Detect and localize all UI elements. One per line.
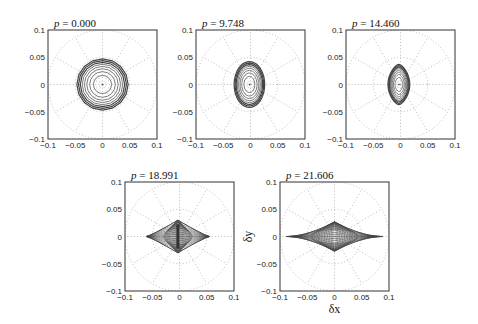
y-tick-label: 0.05 <box>106 205 122 214</box>
y-tick-label: 0.1 <box>266 178 278 187</box>
y-tick-label: −0.1 <box>261 287 277 296</box>
x-tick-label: 0 <box>248 141 253 150</box>
subplot-title: p = 9.748 <box>201 17 244 29</box>
contour-curves <box>234 62 265 108</box>
y-tick-label: −0.05 <box>257 260 278 269</box>
y-tick-label: 0 <box>273 233 278 242</box>
y-tick-label: 0 <box>339 81 344 90</box>
y-tick-label: 0.05 <box>261 205 277 214</box>
contour-curves <box>388 64 410 104</box>
subplot-title: p = 14.460 <box>351 17 400 29</box>
subplot-p-9748: −0.1−0.0500.050.10.10.050−0.05−0.1p = 9.… <box>173 17 311 150</box>
y-tick-label: −0.05 <box>323 108 344 117</box>
x-tick-label: −0.05 <box>363 141 384 150</box>
y-tick-label: −0.1 <box>29 135 45 144</box>
y-tick-label: 0 <box>41 81 46 90</box>
plot-area <box>48 30 157 139</box>
contour-curves <box>77 59 128 110</box>
figure: −0.1−0.0500.050.10.10.050−0.05−0.1p = 0.… <box>0 0 478 324</box>
y-tick-label: 0.1 <box>34 26 46 35</box>
x-tick-label: −0.05 <box>142 293 163 302</box>
x-tick-label: 0.1 <box>228 293 240 302</box>
subplot-title: p = 0.000 <box>53 17 96 29</box>
contour-curves <box>146 220 209 253</box>
x-tick-label: −0.05 <box>213 141 234 150</box>
polar-grid-spoke <box>180 237 227 264</box>
x-tick-label: 0.05 <box>199 293 215 302</box>
subplot-p-21606: −0.1−0.0500.050.10.10.050−0.05−0.1p = 21… <box>241 169 395 316</box>
polar-grid-spoke <box>373 37 400 84</box>
y-axis-label: δy <box>241 231 255 243</box>
x-tick-label: 0.05 <box>354 293 370 302</box>
y-tick-label: −0.05 <box>173 108 194 117</box>
y-tick-label: 0.1 <box>332 26 344 35</box>
x-tick-label: 0.1 <box>449 141 461 150</box>
subplot-title: p = 21.606 <box>285 169 334 181</box>
x-tick-label: 0 <box>332 293 337 302</box>
y-tick-label: −0.1 <box>177 135 193 144</box>
polar-grid-spoke <box>373 85 400 132</box>
y-tick-label: 0.05 <box>29 53 45 62</box>
y-tick-label: 0.05 <box>177 53 193 62</box>
plot-area <box>125 182 234 291</box>
polar-grid-spoke <box>401 37 428 84</box>
y-tick-label: −0.05 <box>25 108 46 117</box>
x-tick-label: 0.1 <box>151 141 163 150</box>
y-tick-label: 0 <box>118 233 123 242</box>
polar-grid-spoke <box>180 237 207 284</box>
x-tick-label: 0.1 <box>299 141 311 150</box>
x-tick-label: 0 <box>177 293 182 302</box>
y-tick-label: −0.1 <box>327 135 343 144</box>
x-tick-label: −0.05 <box>297 293 318 302</box>
x-tick-label: 0.1 <box>383 293 395 302</box>
plot-area <box>280 182 389 291</box>
plot-area <box>196 30 305 139</box>
x-axis-label: δx <box>329 302 341 316</box>
x-tick-label: 0.05 <box>122 141 138 150</box>
subplot-p-18991: −0.1−0.0500.050.10.10.050−0.05−0.1p = 18… <box>102 169 240 302</box>
y-tick-label: 0.1 <box>111 178 123 187</box>
y-tick-label: 0 <box>189 81 194 90</box>
polar-grid-spoke <box>401 85 428 132</box>
polar-grid-spoke <box>180 209 227 236</box>
subplot-p-0: −0.1−0.0500.050.10.10.050−0.05−0.1p = 0.… <box>25 17 163 150</box>
x-tick-label: 0.05 <box>270 141 286 150</box>
y-tick-label: −0.1 <box>106 287 122 296</box>
y-tick-label: −0.05 <box>102 260 123 269</box>
x-tick-label: 0 <box>100 141 105 150</box>
polar-grid-spoke <box>180 189 207 236</box>
subplot-title: p = 18.991 <box>130 169 178 181</box>
y-tick-label: 0.1 <box>182 26 194 35</box>
x-tick-label: −0.05 <box>65 141 86 150</box>
contour-curves <box>287 222 383 251</box>
x-tick-label: 0 <box>398 141 403 150</box>
y-tick-label: 0.05 <box>327 53 343 62</box>
x-tick-label: 0.05 <box>420 141 436 150</box>
plot-area <box>346 30 455 139</box>
subplot-p-14460: −0.1−0.0500.050.10.10.050−0.05−0.1p = 14… <box>323 17 461 150</box>
